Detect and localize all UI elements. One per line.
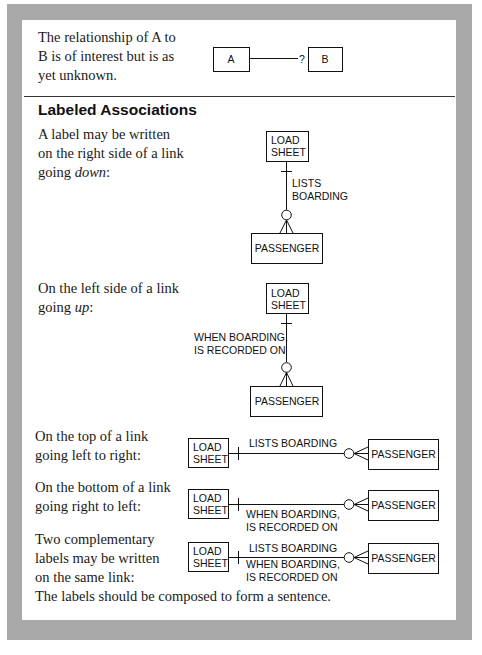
- entity-label-load: LOAD: [271, 287, 300, 299]
- crows-foot-many-icon: [354, 447, 368, 460]
- link-label-bottom-2: IS RECORDED ON: [246, 571, 338, 583]
- entity-label-load: LOAD: [193, 441, 222, 453]
- unknown-marker: ?: [299, 53, 305, 65]
- diagrams-layer: A ? B LOAD SHEET LISTS BOARDING PASSENGE…: [0, 0, 482, 655]
- example-2-diagram: LOAD SHEET WHEN BOARDING, IS RECORDED ON…: [194, 284, 323, 417]
- entity-label-passenger: PASSENGER: [255, 395, 320, 407]
- link-label-line-1: LISTS: [292, 177, 321, 189]
- example-4-diagram: LOAD SHEET WHEN BOARDING, IS RECORDED ON…: [189, 490, 439, 534]
- zero-optional-icon: [344, 500, 354, 510]
- zero-optional-icon: [344, 553, 354, 563]
- example-5-diagram: LOAD SHEET LISTS BOARDING WHEN BOARDING,…: [189, 542, 439, 583]
- zero-optional-icon: [282, 210, 292, 220]
- link-label-bottom-2: IS RECORDED ON: [246, 521, 338, 533]
- entity-label-sheet: SHEET: [271, 299, 307, 311]
- entity-label-b: B: [321, 53, 328, 65]
- crows-foot-many-icon: [280, 220, 293, 233]
- link-label-top: LISTS BOARDING: [249, 542, 337, 554]
- entity-label-load: LOAD: [271, 134, 300, 146]
- entity-label-load: LOAD: [193, 545, 222, 557]
- entity-label-sheet: SHEET: [271, 146, 307, 158]
- crows-foot-many-icon: [354, 551, 368, 564]
- entity-label-load: LOAD: [193, 492, 222, 504]
- zero-optional-icon: [344, 449, 354, 459]
- crows-foot-many-icon: [354, 498, 368, 511]
- entity-label-passenger: PASSENGER: [371, 552, 436, 564]
- entity-label-sheet: SHEET: [193, 453, 229, 465]
- entity-label-sheet: SHEET: [193, 557, 229, 569]
- entity-label-passenger: PASSENGER: [371, 499, 436, 511]
- link-label-top: LISTS BOARDING: [249, 437, 337, 449]
- link-label-line-2: BOARDING: [292, 190, 348, 202]
- link-label-line-2: IS RECORDED ON: [194, 344, 286, 356]
- zero-optional-icon: [282, 363, 292, 373]
- entity-label-passenger: PASSENGER: [371, 448, 436, 460]
- entity-label-sheet: SHEET: [193, 504, 229, 516]
- link-label-bottom-1: WHEN BOARDING,: [246, 508, 340, 520]
- intro-diagram: A ? B: [214, 48, 343, 72]
- example-3-diagram: LOAD SHEET LISTS BOARDING PASSENGER: [189, 437, 439, 470]
- crows-foot-many-icon: [280, 373, 293, 387]
- link-label-line-1: WHEN BOARDING,: [194, 331, 288, 343]
- entity-label-a: A: [227, 53, 234, 65]
- example-1-diagram: LOAD SHEET LISTS BOARDING PASSENGER: [252, 132, 349, 264]
- link-label-bottom-1: WHEN BOARDING,: [246, 558, 340, 570]
- entity-label-passenger: PASSENGER: [255, 242, 320, 254]
